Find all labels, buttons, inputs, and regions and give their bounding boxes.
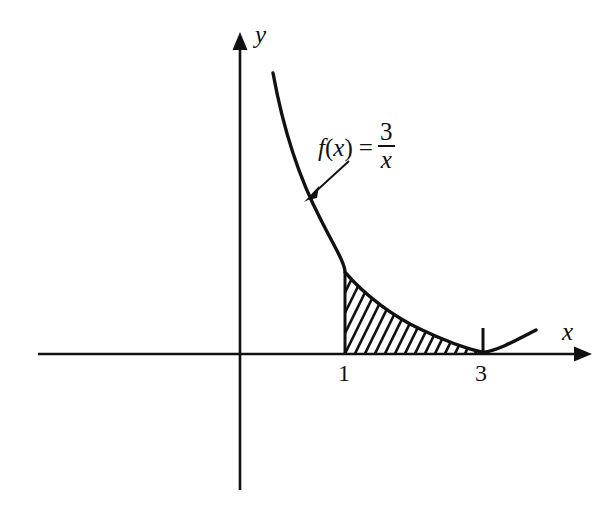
y-axis-group (233, 32, 248, 490)
function-label: f ( x ) = 3 x (318, 121, 395, 173)
x-axis-group (38, 347, 592, 362)
hatched-region (305, 262, 530, 374)
math-figure: y x 1 3 f ( x ) = 3 x (0, 0, 615, 508)
x-tick-label-1: 1 (331, 361, 357, 385)
function-variable: x (333, 135, 344, 160)
function-arg-close: ) (344, 135, 352, 160)
function-curve (273, 73, 536, 353)
function-name: f (318, 135, 325, 160)
fraction-numerator: 3 (378, 120, 395, 144)
x-axis-arrowhead-icon (574, 347, 592, 362)
x-axis-label: x (562, 319, 573, 344)
x-tick-label-3: 3 (468, 361, 494, 385)
figure-canvas (0, 0, 615, 508)
fraction-denominator: x (379, 147, 394, 172)
y-axis-label: y (255, 22, 266, 47)
equals-sign: = (359, 135, 373, 160)
fraction-three-over-x: 3 x (378, 120, 395, 172)
hatch-lines (305, 262, 530, 374)
y-axis-arrowhead-icon (233, 32, 248, 50)
